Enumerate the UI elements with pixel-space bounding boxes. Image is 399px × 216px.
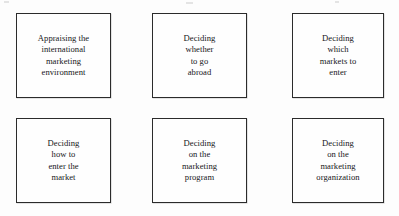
diagram-node-label: Deciding how to enter the market xyxy=(17,138,110,184)
diagram-node-deciding-how-to-enter[interactable]: Deciding how to enter the market xyxy=(16,118,111,203)
diagram-node-grid: Appraising the international marketing e… xyxy=(0,0,399,216)
diagram-node-deciding-marketing-organization[interactable]: Deciding on the marketing organization xyxy=(292,118,384,203)
diagram-node-label: Deciding on the marketing program xyxy=(153,138,246,184)
diagram-canvas: Appraising the international marketing e… xyxy=(0,0,399,216)
diagram-node-deciding-whether-to-go-abroad[interactable]: Deciding whether to go abroad xyxy=(152,13,247,98)
diagram-node-deciding-which-markets[interactable]: Deciding which markets to enter xyxy=(292,13,384,98)
diagram-node-label: Deciding on the marketing organization xyxy=(293,138,383,184)
diagram-node-label: Deciding which markets to enter xyxy=(293,33,383,79)
diagram-node-deciding-marketing-program[interactable]: Deciding on the marketing program xyxy=(152,118,247,203)
diagram-node-label: Appraising the international marketing e… xyxy=(17,33,110,79)
diagram-node-label: Deciding whether to go abroad xyxy=(153,33,246,79)
diagram-node-appraising-environment[interactable]: Appraising the international marketing e… xyxy=(16,13,111,98)
